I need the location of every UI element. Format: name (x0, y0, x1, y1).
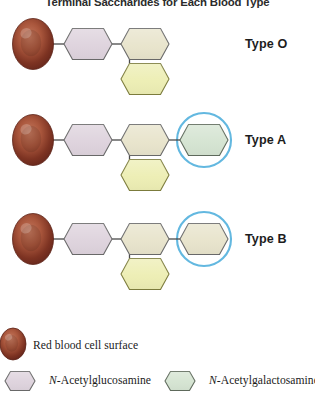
red-blood-cell (13, 115, 54, 166)
fucose-hexagon-sheen (121, 160, 169, 191)
legend-rbc-label-text: Red blood cell surface (33, 339, 138, 352)
galactose-hexagon (121, 224, 169, 255)
fucose-hexagon (121, 160, 169, 191)
n-acetylglucosamine-hexagon (64, 224, 112, 255)
legend-glcnac-label-text: -Acetylglucosamine (57, 374, 151, 387)
type-label-type-b: Type B (245, 232, 287, 246)
galactose-hexagon (121, 125, 169, 156)
legend-galnac-label-text: -Acetylgalactosamine (217, 374, 315, 387)
type-label-type-o: Type O (245, 37, 287, 51)
legend-legend-glcnac-icon-sheen (5, 372, 35, 391)
blood-type-saccharide-figure: Terminal Saccharides for Each Blood Type (0, 0, 315, 396)
galactose-hexagon-sheen (121, 125, 169, 156)
galactose-hexagon-sheen (121, 29, 169, 60)
legend-legend-galnac-icon (165, 372, 195, 391)
type-label-type-a: Type A (245, 133, 286, 147)
blood-type-row-type-o (13, 19, 170, 95)
legend-glcnac-label: N-Acetylglucosamine (49, 374, 151, 387)
galactose-hexagon (121, 29, 169, 60)
legend-rbc-label: Red blood cell surface (33, 339, 138, 352)
n-acetylglucosamine-hexagon-sheen (64, 125, 112, 156)
blood-type-row-type-b (13, 212, 232, 290)
legend-legend-galnac-icon-sheen (165, 372, 195, 391)
red-blood-cell (13, 214, 54, 265)
legend-galnac-label-prefix: N (209, 374, 217, 387)
diagram-canvas (0, 0, 315, 396)
n-acetylglucosamine-hexagon-sheen (64, 29, 112, 60)
blood-type-row-type-a (13, 113, 232, 191)
fucose-hexagon (121, 259, 169, 290)
n-acetylglucosamine-hexagon (64, 29, 112, 60)
fucose-hexagon (121, 64, 169, 95)
figure-title: Terminal Saccharides for Each Blood Type (0, 0, 315, 8)
galactose-hexagon-sheen (121, 224, 169, 255)
legend-red-blood-cell-icon (0, 328, 26, 360)
n-acetylglucosamine-hexagon (64, 125, 112, 156)
n-acetylgalactosamine-hexagon (180, 125, 228, 156)
n-acetylgalactosamine-hexagon-sheen (180, 125, 228, 156)
fucose-hexagon-sheen (121, 64, 169, 95)
red-blood-cell (13, 19, 54, 70)
legend-galnac-label: N-Acetylgalactosamine (209, 374, 315, 387)
galactose-terminal-hexagon-sheen (180, 224, 228, 255)
n-acetylglucosamine-hexagon-sheen (64, 224, 112, 255)
fucose-hexagon-sheen (121, 259, 169, 290)
legend-legend-glcnac-icon (5, 372, 35, 391)
galactose-terminal-hexagon (180, 224, 228, 255)
legend-glcnac-label-prefix: N (49, 374, 57, 387)
